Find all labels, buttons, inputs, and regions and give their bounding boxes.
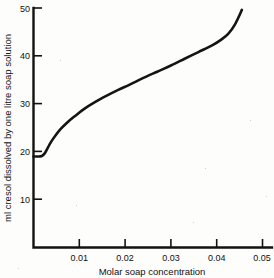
x-axis-ticks bbox=[79, 239, 262, 247]
x-tick-label: 0.03 bbox=[162, 253, 180, 263]
y-tick-label: 50 bbox=[20, 4, 30, 14]
paper-speckles bbox=[18, 60, 267, 269]
y-tick-label: 10 bbox=[20, 195, 30, 205]
x-axis-title: Molar soap concentration bbox=[99, 266, 206, 277]
y-axis-title: ml cresol dissolved by one litre soap so… bbox=[2, 34, 13, 222]
y-tick-labels: 50 40 30 20 10 bbox=[20, 4, 30, 205]
x-tick-label: 0.04 bbox=[208, 253, 226, 263]
y-tick-label: 40 bbox=[20, 51, 30, 61]
x-tick-label: 0.01 bbox=[71, 253, 89, 263]
x-tick-labels: 0.01 0.02 0.03 0.04 0.05 bbox=[71, 253, 271, 263]
axis-lines bbox=[34, 8, 273, 248]
chart-figure: 50 40 30 20 10 0.01 0.02 0.03 0.04 0.05 … bbox=[0, 0, 274, 278]
axes bbox=[34, 8, 273, 248]
cresol-solubilisation-line-chart: 50 40 30 20 10 0.01 0.02 0.03 0.04 0.05 … bbox=[0, 0, 274, 278]
y-tick-label: 30 bbox=[20, 99, 30, 109]
x-tick-label: 0.05 bbox=[253, 253, 271, 263]
data-series-line bbox=[34, 10, 242, 157]
y-tick-label: 20 bbox=[20, 147, 30, 157]
x-tick-label: 0.02 bbox=[116, 253, 134, 263]
